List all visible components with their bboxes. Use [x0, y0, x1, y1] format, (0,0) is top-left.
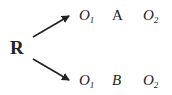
treatment-label-bottom: B — [112, 73, 121, 88]
treatment-label-top: A — [112, 8, 123, 23]
posttest-label-top: O2 — [143, 8, 158, 25]
pretest-label-top: O1 — [79, 8, 94, 25]
root-label: R — [10, 38, 24, 57]
pretest-label-bottom: O1 — [79, 73, 94, 90]
randomized-design-diagram: R O1 A O2 O1 B O2 — [0, 0, 172, 95]
posttest-label-bottom: O2 — [143, 73, 158, 90]
arrow-up-icon — [33, 16, 69, 37]
arrow-down-icon — [33, 59, 69, 80]
